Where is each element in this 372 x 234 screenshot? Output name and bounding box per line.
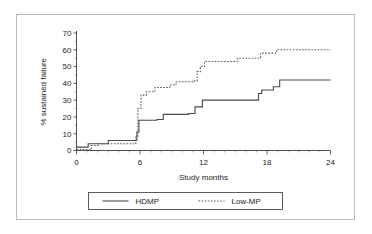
y-tick-label: 40 [63, 79, 72, 88]
y-axis-title: % sustained failure [39, 57, 48, 125]
y-tick-label: 0 [67, 146, 72, 155]
y-tick-label: 50 [63, 62, 72, 71]
legend-label-low-mp: Low-MP [232, 197, 261, 206]
figure-page: 01020304050607006121824Study months% sus… [0, 0, 372, 234]
x-tick-label: 6 [138, 158, 143, 167]
legend-label-hdmp: HDMP [136, 197, 160, 206]
series-line-hdmp [77, 80, 331, 147]
y-tick-label: 30 [63, 96, 72, 105]
x-tick-label: 18 [263, 158, 272, 167]
y-tick-label: 60 [63, 46, 72, 55]
y-tick-label: 20 [63, 113, 72, 122]
chart-series-group [77, 50, 331, 150]
x-tick-label: 24 [326, 158, 335, 167]
x-axis-title: Study months [179, 173, 228, 182]
y-tick-label: 70 [63, 29, 72, 38]
survival-chart: 01020304050607006121824Study months% sus… [0, 0, 372, 234]
x-tick-label: 12 [199, 158, 208, 167]
y-tick-label: 10 [63, 130, 72, 139]
chart-legend: HDMPLow-MP [89, 193, 283, 210]
x-tick-label: 0 [74, 158, 79, 167]
chart-axes: 01020304050607006121824Study months% sus… [39, 29, 335, 182]
